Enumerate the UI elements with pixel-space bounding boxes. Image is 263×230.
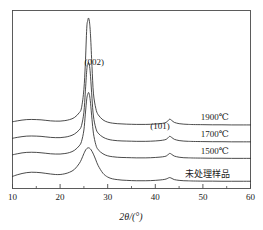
x-tick-label: 60 (246, 192, 256, 202)
peak-label-1: (002) (85, 57, 105, 67)
chart-canvas: 102030405060 (002)(101) 1900℃1700℃1500℃未… (0, 0, 263, 230)
series-label-1: 1900℃ (201, 112, 229, 122)
series-label-3: 1500℃ (201, 146, 229, 156)
x-tick-label: 30 (103, 192, 113, 202)
x-tick-label: 10 (8, 192, 18, 202)
x-tick-label: 50 (198, 192, 208, 202)
peak-label-2: (101) (150, 121, 170, 131)
x-tick-label: 40 (151, 192, 161, 202)
series-label-4: 未处理样品 (185, 168, 230, 179)
series-label-2: 1700℃ (201, 129, 229, 139)
x-tick-label: 20 (56, 192, 66, 202)
xrd-chart: 102030405060 (002)(101) 1900℃1700℃1500℃未… (0, 0, 263, 230)
x-axis-title: 2θ/(°) (119, 211, 143, 223)
